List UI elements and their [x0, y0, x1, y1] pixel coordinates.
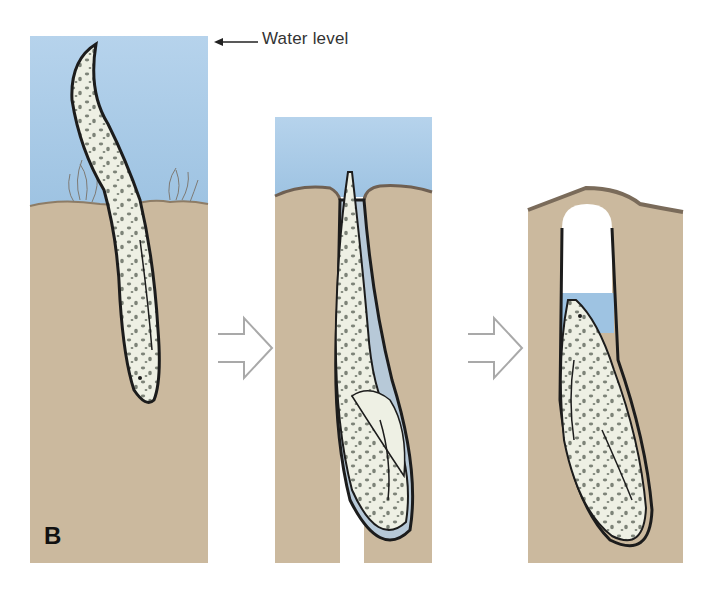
panel-label: B — [44, 522, 61, 550]
soil-region — [275, 187, 340, 563]
left-arrow-icon — [214, 38, 258, 46]
stage-1-panel — [30, 36, 208, 563]
air-chamber — [562, 204, 612, 293]
stage-2-panel — [275, 117, 432, 563]
water-level-label: Water level — [262, 29, 349, 49]
stage-3-panel — [528, 188, 683, 563]
lungfish-aestivation-diagram — [0, 0, 712, 592]
transition-arrow-1 — [218, 318, 272, 378]
transition-arrow-2 — [468, 318, 522, 378]
